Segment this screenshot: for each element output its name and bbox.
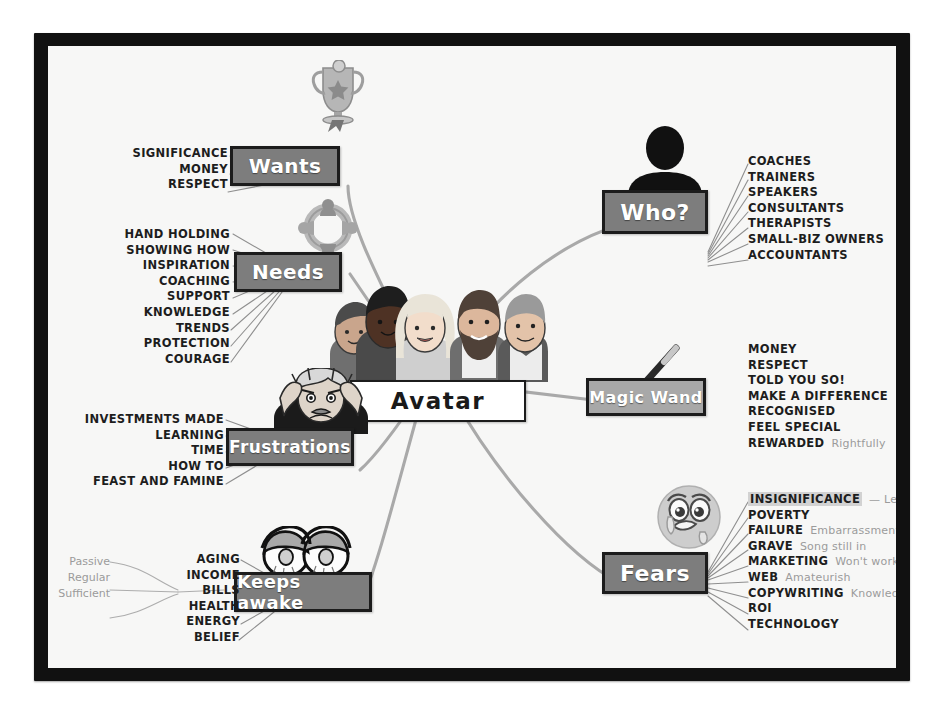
leaf-item[interactable]: CONSULTANTS [748, 201, 896, 217]
leaf-item[interactable]: KNOWLEDGE [48, 305, 230, 321]
leaf-item[interactable]: MARKETINGWon't work [748, 554, 896, 570]
center-node-avatar[interactable]: Avatar [350, 380, 526, 422]
leaf-item[interactable]: HAND HOLDING [48, 227, 230, 243]
leaf-text: TOLD YOU SO! [748, 373, 845, 387]
crying-face-icon [656, 484, 722, 550]
leaf-item[interactable]: AGING [144, 552, 240, 568]
branch-node-who[interactable]: Who? [602, 190, 708, 234]
leaf-text: MAKE A DIFFERENCE [748, 389, 888, 403]
leaf-annotation: Knowledge [851, 587, 896, 600]
leaf-item[interactable]: FEEL SPECIAL [748, 420, 896, 436]
mindmap-screenshot: Avatar Wants SIGNIFICANCE MONEY RESPECT [0, 0, 945, 714]
leaf-item[interactable]: COACHES [748, 154, 896, 170]
leaf-text: HAND HOLDING [124, 227, 230, 241]
leaf-text: HOW TO [168, 459, 224, 473]
leaf-item[interactable]: ACCOUNTANTS [748, 248, 896, 264]
stressed-man-icon [266, 368, 376, 434]
leaf-item[interactable]: RECOGNISED [748, 404, 896, 420]
branch-node-fears[interactable]: Fears [602, 552, 708, 594]
leaf-item[interactable]: MONEY [748, 342, 896, 358]
leaf-item[interactable]: TOLD YOU SO! [748, 373, 896, 389]
branch-label-fears: Fears [620, 561, 690, 586]
leaf-item[interactable]: FAILUREEmbarrassment [748, 523, 896, 539]
leaf-item[interactable]: GRAVESong still in [748, 539, 896, 555]
leaf-text: SHOWING HOW [126, 243, 230, 257]
network-people-icon [296, 198, 360, 258]
leaf-text: BILLS [202, 583, 240, 597]
leaf-text: HEALTH [189, 599, 240, 613]
leaf-item[interactable]: LEARNING [48, 428, 224, 444]
branch-label-magic-wand: Magic Wand [589, 388, 702, 407]
leaf-text: SIGNIFICANCE [133, 146, 229, 160]
leaf-item[interactable]: TECHNOLOGY [748, 617, 896, 633]
leaf-text: ENERGY [186, 614, 240, 628]
branch-label-wants: Wants [249, 154, 322, 178]
sub-annotation[interactable]: Passive [48, 554, 110, 570]
leaf-annotation: — Legacy [869, 493, 896, 506]
leaf-annotation: Song still in [800, 540, 867, 553]
trophy-icon [310, 60, 366, 132]
leaf-text: RESPECT [168, 177, 228, 191]
leaf-annotation: Won't work [835, 555, 896, 568]
leaf-text: COPYWRITING [748, 586, 844, 600]
leaf-item[interactable]: RESPECT [48, 177, 228, 193]
leaf-text: FEAST AND FAMINE [93, 474, 224, 488]
leaf-item[interactable]: INVESTMENTS MADE [48, 412, 224, 428]
leaf-item[interactable]: SMALL-BIZ OWNERS [748, 232, 896, 248]
leaf-item[interactable]: SPEAKERS [748, 185, 896, 201]
leaf-item[interactable]: FEAST AND FAMINE [48, 474, 224, 490]
leaf-item[interactable]: MAKE A DIFFERENCE [748, 389, 896, 405]
leaf-item[interactable]: MONEY [48, 162, 228, 178]
branch-node-needs[interactable]: Needs [234, 252, 342, 292]
leaf-text: COACHES [748, 154, 811, 168]
leaf-item[interactable]: ENERGY [144, 614, 240, 630]
leaf-text: INSPIRATION [143, 258, 230, 272]
leaf-text: INSIGNIFICANCE [748, 492, 862, 506]
leaf-item[interactable]: THERAPISTS [748, 216, 896, 232]
leaf-item[interactable]: COACHING [48, 274, 230, 290]
leaf-item[interactable]: COURAGE [48, 352, 230, 368]
leaf-text: ROI [748, 601, 772, 615]
leaf-item[interactable]: WEBAmateurish [748, 570, 896, 586]
leaf-text: AGING [197, 552, 240, 566]
leaf-item[interactable]: RESPECT [748, 358, 896, 374]
branch-node-wants[interactable]: Wants [230, 146, 340, 186]
branch-node-keeps-awake[interactable]: Keeps awake [234, 572, 372, 612]
leaf-item[interactable]: INSIGNIFICANCE— Legacy [748, 492, 896, 508]
leaf-text: INVESTMENTS MADE [85, 412, 224, 426]
leaf-item[interactable]: REWARDEDRightfully [748, 436, 896, 452]
leaf-text: GRAVE [748, 539, 793, 553]
leaf-item[interactable]: BILLS [144, 583, 240, 599]
mindmap-canvas: Avatar Wants SIGNIFICANCE MONEY RESPECT [48, 46, 896, 668]
branch-node-frustrations[interactable]: Frustrations [226, 428, 354, 466]
leaf-text: FEEL SPECIAL [748, 420, 841, 434]
leaf-item[interactable]: SIGNIFICANCE [48, 146, 228, 162]
leaf-item[interactable]: COPYWRITINGKnowledge [748, 586, 896, 602]
leaf-item[interactable]: TIME [48, 443, 224, 459]
leaf-text: KNOWLEDGE [144, 305, 230, 319]
leaf-item[interactable]: INCOME [144, 568, 240, 584]
leaf-text: INCOME [186, 568, 240, 582]
leaf-text: THERAPISTS [748, 216, 832, 230]
leaf-list-needs: HAND HOLDING SHOWING HOW INSPIRATION COA… [48, 227, 230, 367]
sub-annotation[interactable]: Regular [48, 570, 110, 586]
sub-annotation[interactable]: Sufficient [48, 586, 110, 602]
leaf-item[interactable]: ROI [748, 601, 896, 617]
leaf-text: COURAGE [165, 352, 230, 366]
leaf-item[interactable]: PROTECTION [48, 336, 230, 352]
leaf-item[interactable]: POVERTY [748, 508, 896, 524]
sub-annotation-list-income: Passive Regular Sufficient [48, 554, 110, 602]
leaf-text: FAILURE [748, 523, 803, 537]
branch-node-magic-wand[interactable]: Magic Wand [586, 378, 706, 416]
leaf-list-who: COACHES TRAINERS SPEAKERS CONSULTANTS TH… [748, 154, 896, 263]
leaf-item[interactable]: SUPPORT [48, 289, 230, 305]
leaf-item[interactable]: HOW TO [48, 459, 224, 475]
leaf-item[interactable]: SHOWING HOW [48, 243, 230, 259]
leaf-item[interactable]: HEALTH [144, 599, 240, 615]
leaf-text: WEB [748, 570, 778, 584]
branch-label-frustrations: Frustrations [229, 437, 351, 457]
leaf-item[interactable]: TRENDS [48, 321, 230, 337]
leaf-item[interactable]: TRAINERS [748, 170, 896, 186]
leaf-item[interactable]: INSPIRATION [48, 258, 230, 274]
leaf-item[interactable]: BELIEF [144, 630, 240, 646]
